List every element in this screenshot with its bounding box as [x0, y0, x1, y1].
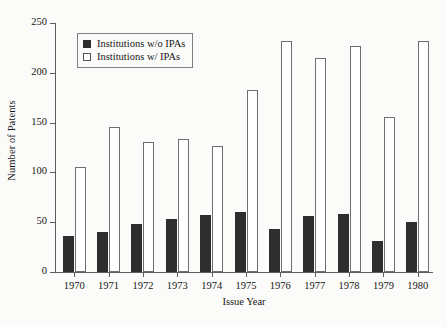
y-axis-tick-mark [50, 222, 55, 223]
y-axis-tick-label: 150 [31, 116, 47, 127]
x-axis-tick-mark [177, 272, 178, 277]
x-axis-tick-mark [212, 272, 213, 277]
y-axis-tick-label: 50 [37, 215, 48, 226]
bar-1973-with-ipas [178, 139, 189, 272]
bar-1970-with-ipas [75, 167, 86, 272]
y-axis-tick-mark [50, 73, 55, 74]
x-axis-tick: 1978 [349, 272, 350, 273]
x-axis-tick: 1977 [315, 272, 316, 273]
x-axis-title: Issue Year [55, 296, 433, 307]
y-axis-tick: 50 [17, 222, 55, 223]
bar-1976-without-ipas [269, 229, 280, 272]
bar-1970-without-ipas [63, 236, 74, 272]
legend-item-with-ipas: Institutions w/ IPAs [83, 50, 185, 63]
y-axis-spine [55, 23, 56, 272]
x-axis-spine [55, 272, 433, 273]
y-axis-tick: 0 [17, 272, 55, 273]
bar-1979-without-ipas [372, 241, 383, 272]
y-axis-title: Number of Patents [0, 0, 22, 280]
bar-1977-without-ipas [303, 216, 314, 272]
bar-1976-with-ipas [281, 41, 292, 272]
y-axis-tick-mark [50, 123, 55, 124]
bar-1971-with-ipas [109, 127, 120, 272]
bar-1972-with-ipas [143, 142, 154, 272]
x-axis-tick-mark [143, 272, 144, 277]
bar-1980-with-ipas [418, 41, 429, 272]
x-axis-tick: 1980 [418, 272, 419, 273]
bar-1978-with-ipas [350, 46, 361, 272]
bar-1974-without-ipas [200, 215, 211, 272]
y-axis-tick: 100 [17, 172, 55, 173]
x-axis-tick-mark [418, 272, 419, 277]
bar-1974-with-ipas [212, 146, 223, 272]
x-axis-tick: 1973 [177, 272, 178, 273]
x-axis-tick-mark [280, 272, 281, 277]
legend-item-without-ipas: Institutions w/o IPAs [83, 37, 185, 50]
y-axis-title-text: Number of Patents [6, 100, 17, 180]
bar-1975-with-ipas [247, 90, 258, 272]
bar-1975-without-ipas [235, 212, 246, 272]
bar-1972-without-ipas [131, 224, 142, 272]
y-axis-tick-label: 250 [31, 16, 47, 27]
legend-label-without-ipas: Institutions w/o IPAs [97, 38, 185, 49]
x-axis-tick-mark [315, 272, 316, 277]
y-axis-tick: 150 [17, 123, 55, 124]
legend-label-with-ipas: Institutions w/ IPAs [97, 51, 180, 62]
open-square-icon [83, 53, 91, 61]
x-axis-tick-label: 1980 [396, 280, 440, 291]
y-axis-tick-label: 0 [42, 265, 47, 276]
x-axis-tick: 1971 [109, 272, 110, 273]
bar-1977-with-ipas [315, 58, 326, 272]
bar-chart-figure: Number of Patents 050100150200250 197019… [0, 0, 447, 327]
bar-1979-with-ipas [384, 117, 395, 272]
bar-1980-without-ipas [406, 222, 417, 272]
x-axis-tick-mark [109, 272, 110, 277]
y-axis-tick-label: 200 [31, 66, 47, 77]
x-axis-tick: 1979 [383, 272, 384, 273]
bar-1971-without-ipas [97, 232, 108, 272]
chart-legend: Institutions w/o IPAs Institutions w/ IP… [77, 33, 193, 68]
y-axis-tick-mark [50, 172, 55, 173]
x-axis-tick: 1975 [246, 272, 247, 273]
y-axis-tick-mark [50, 272, 55, 273]
bar-1973-without-ipas [166, 219, 177, 272]
y-axis-tick-mark [50, 23, 55, 24]
x-axis-tick: 1970 [74, 272, 75, 273]
y-axis-tick: 250 [17, 23, 55, 24]
y-axis-tick: 200 [17, 73, 55, 74]
x-axis-tick-mark [383, 272, 384, 277]
x-axis-tick: 1972 [143, 272, 144, 273]
x-axis-tick: 1974 [212, 272, 213, 273]
x-axis-tick-mark [74, 272, 75, 277]
y-axis-tick-label: 100 [31, 165, 47, 176]
x-axis-tick: 1976 [280, 272, 281, 273]
bar-1978-without-ipas [338, 214, 349, 272]
x-axis-tick-mark [246, 272, 247, 277]
x-axis-tick-mark [349, 272, 350, 277]
filled-square-icon [83, 40, 91, 48]
